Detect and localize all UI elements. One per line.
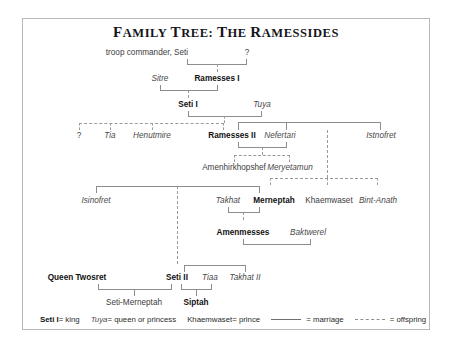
connector-istnofret-descent: [327, 130, 328, 178]
legend-offspring: = offspring: [355, 315, 426, 324]
node-merneptah: Merneptah: [253, 196, 294, 206]
connector-offspring-henutmire: [152, 123, 153, 130]
connector-child-siptah: [196, 289, 197, 296]
connector-marriage-isinofret-bar: [96, 186, 260, 187]
legend-marriage: = marriage: [271, 315, 344, 324]
connector-child-seti-merneptah: [134, 289, 135, 296]
connector-marriage-takhat-ii: [245, 265, 246, 272]
figure-title: FAMILY TREE: THE RAMESSIDES: [0, 24, 452, 41]
connector-offspring-g2-drop: [224, 116, 225, 123]
marriage-line-icon: [271, 319, 301, 320]
connector-offspring-amenmesses: [243, 212, 244, 220]
node-tiaa: Tiaa: [202, 273, 218, 283]
connector-marriage-istnofret: [380, 122, 381, 130]
connector-offspring-ramesses-i: [217, 64, 218, 72]
connector-offspring-bint-anath: [377, 178, 378, 185]
connector-marriage-seti-ii-left: [184, 265, 185, 272]
legend-prince-name: Khaemwaset: [187, 315, 232, 324]
connector-offspring-unknown-2: [79, 123, 80, 130]
legend-marriage-label: = marriage: [306, 315, 344, 324]
node-nefertari: Nefertari: [264, 131, 295, 141]
connector-marriage-g1-right: [217, 85, 218, 91]
legend-king: Seti I = king: [40, 315, 80, 324]
connector-offspring-khaemwaset: [327, 178, 328, 185]
node-unknown-1: ?: [245, 48, 250, 58]
connector-marriage-twosret-right: [171, 284, 172, 290]
node-seti-merneptah: Seti-Merneptah: [106, 298, 162, 308]
legend-offspring-label: = offspring: [390, 315, 426, 324]
connector-marriage-amenmesses-bar: [243, 244, 311, 245]
node-istnofret: Istnofret: [366, 131, 396, 141]
connector-marriage-g2-bar: [188, 116, 262, 117]
node-amenmesses: Amenmesses: [217, 228, 270, 238]
connector-marriage-r2-left: [238, 122, 239, 130]
legend-prince: Khaemwaset = prince: [187, 315, 260, 324]
legend-prince-eq: = prince: [232, 315, 260, 324]
connector-marriage-r2-bar: [238, 122, 381, 123]
connector-marriage-nefertari: [286, 122, 287, 130]
node-tuya: Tuya: [253, 100, 271, 110]
connector-marriage-twosret-bar: [98, 289, 172, 290]
connector-offspring-merneptah: [270, 178, 271, 185]
offspring-line-icon: [355, 319, 385, 320]
node-meryetamun: Meryetamun: [267, 163, 313, 173]
connector-offspring-ramesses-ii: [223, 123, 224, 130]
family-tree-figure: FAMILY TREE: THE RAMESSIDES troop comman…: [0, 0, 452, 358]
connector-offspring-amenhirkhopshef: [234, 155, 235, 162]
node-queen-twosret: Queen Twosret: [48, 273, 107, 283]
connector-marriage-takhat-right: [259, 207, 260, 213]
node-ramesses-i: Ramesses I: [194, 74, 239, 84]
connector-marriage-g2-right: [261, 111, 262, 117]
node-bint-anath: Bint-Anath: [359, 196, 397, 206]
connector-offspring-g4-drop: [262, 147, 263, 155]
node-seti-i: Seti I: [178, 100, 198, 110]
node-troop-commander-seti: troop commander, Seti: [106, 48, 188, 58]
connector-offspring-g5-bar: [270, 178, 378, 179]
node-henutmire: Henutmire: [133, 131, 171, 141]
connector-marriage-isinofret-left: [96, 186, 97, 193]
legend-queen: Tuya = queen or princess: [91, 315, 176, 324]
node-takhat-ii: Takhat II: [229, 273, 260, 283]
connector-marriage-tiaa-right: [211, 284, 212, 290]
node-siptah: Siptah: [183, 298, 208, 308]
connector-descent-seti-ii: [177, 186, 178, 264]
legend-king-eq: = king: [59, 315, 80, 324]
node-seti-ii: Seti II: [166, 273, 188, 283]
connector-offspring-meryetamun: [289, 155, 290, 162]
connector-marriage-g0-right: [246, 59, 247, 65]
node-takhat: Takhat: [216, 196, 240, 206]
legend-queen-name: Tuya: [91, 315, 108, 324]
connector-r2-child-right: [286, 142, 287, 148]
node-sitre: Sitre: [152, 74, 169, 84]
node-khaemwaset: Khaemwaset: [305, 196, 352, 206]
connector-marriage-isinofret-right: [259, 186, 260, 193]
connector-offspring-g4-bar: [234, 155, 290, 156]
node-baktwerel: Baktwerel: [290, 228, 326, 238]
legend-king-name: Seti I: [40, 315, 59, 324]
node-unknown-2: ?: [77, 131, 82, 141]
legend-queen-eq: = queen or princess: [107, 315, 176, 324]
connector-marriage-amenmesses-right: [310, 239, 311, 245]
connector-marriage-seti-ii-bar: [184, 265, 246, 266]
connector-offspring-tia: [110, 123, 111, 130]
node-ramesses-ii: Ramesses II: [208, 131, 255, 141]
node-isinofret: Isinofret: [81, 196, 110, 206]
connector-offspring-seti-i: [188, 90, 189, 98]
node-amenhirkhopshef: Amenhirkhopshef: [202, 163, 266, 173]
node-tia: Tia: [104, 131, 115, 141]
legend: Seti I = king Tuya = queen or princess K…: [40, 315, 437, 324]
